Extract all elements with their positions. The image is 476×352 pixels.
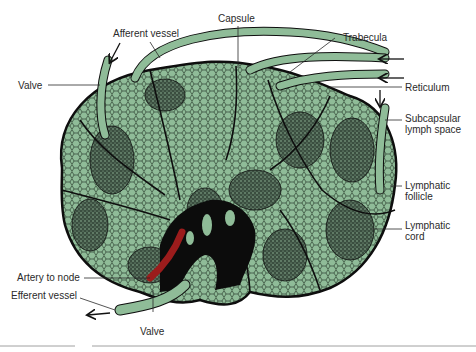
label-cord: cord [405,231,424,242]
label-lymphatic-follicle: Lymphatic [405,180,450,191]
label-follicle: follicle [405,191,433,202]
label-capsule: Capsule [218,13,255,24]
label-afferent-vessel: Afferent vessel [113,28,179,39]
label-artery-to-node: Artery to node [17,272,80,283]
label-trabecula: Trabecula [343,32,387,43]
label-reticulum: Reticulum [405,82,449,93]
label-lymph-space: lymph space [405,124,461,135]
label-subcapsular: Subcapsular [405,113,461,124]
label-efferent-vessel: Efferent vessel [11,290,77,301]
label-lymphatic-cord: Lymphatic [405,220,450,231]
label-valve-bottom: Valve [140,326,164,337]
label-valve-left: Valve [18,80,42,91]
